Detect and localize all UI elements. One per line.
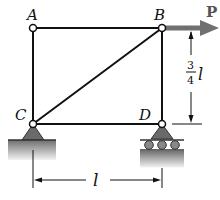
height-numerator: 3 <box>187 59 194 72</box>
joint-C <box>30 121 37 128</box>
node-label-D: D <box>138 106 151 124</box>
node-label-B: B <box>153 6 165 24</box>
node-label-A: A <box>25 6 38 24</box>
height-denominator: 4 <box>187 74 194 87</box>
joint-D <box>159 121 166 128</box>
width-variable: l <box>93 170 98 190</box>
pin-support-icon <box>8 124 56 160</box>
truss-diagram: P A B C D 3 4 l <box>0 0 220 200</box>
node-label-C: C <box>15 106 27 124</box>
joint-A <box>30 25 37 32</box>
load-label: P <box>206 3 217 21</box>
roller-support-icon <box>140 124 184 168</box>
joint-B <box>159 25 166 32</box>
height-variable: l <box>198 65 203 84</box>
